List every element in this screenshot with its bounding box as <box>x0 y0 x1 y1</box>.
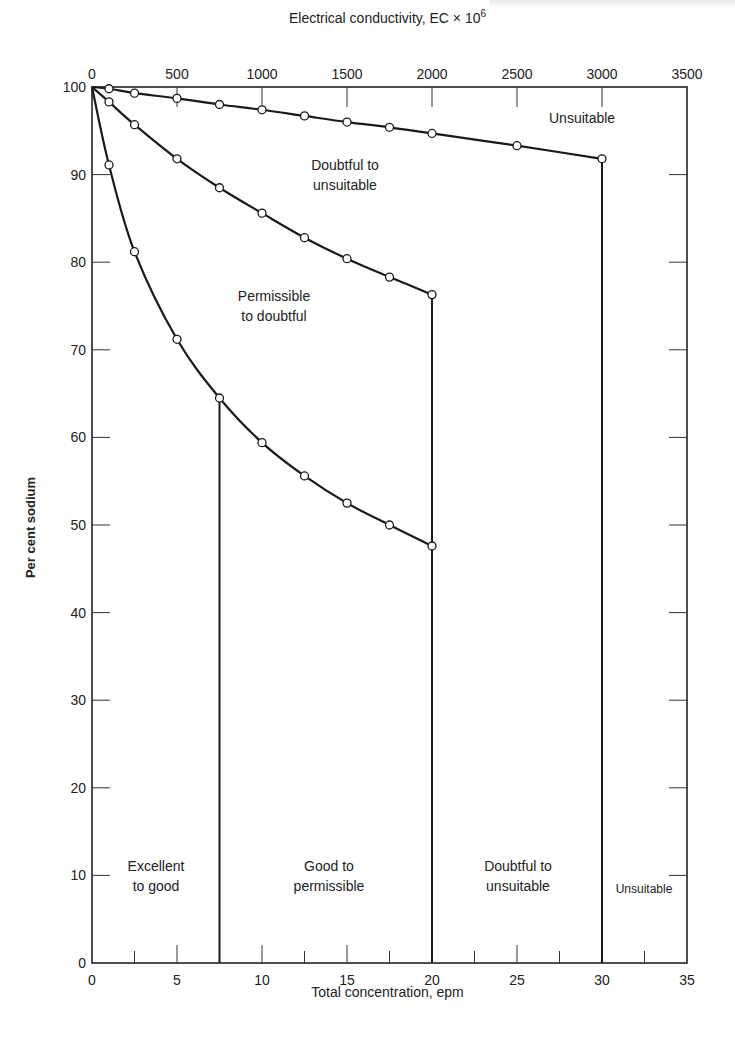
y-tick-label: 70 <box>70 342 86 358</box>
x-tick-label: 10 <box>254 972 270 988</box>
x2-tick-label: 3500 <box>671 66 702 82</box>
region-label-good-2: permissible <box>294 878 365 894</box>
y-tick-label: 50 <box>70 517 86 533</box>
x-tick-label: 20 <box>424 972 440 988</box>
y-tick-label: 40 <box>70 605 86 621</box>
data-point <box>216 184 224 192</box>
data-point <box>258 439 266 447</box>
region-label-lower-unsuitable: Unsuitable <box>616 882 673 896</box>
y-tick-label: 100 <box>63 79 87 95</box>
data-point <box>105 161 113 169</box>
data-point <box>343 118 351 126</box>
data-point <box>173 155 181 163</box>
data-points <box>105 85 606 550</box>
sodium-classification-chart: 0510152025303505001000150020002500300035… <box>0 0 735 1039</box>
data-point <box>216 101 224 109</box>
x-tick-label: 15 <box>339 972 355 988</box>
x-tick-label: 35 <box>679 972 695 988</box>
data-point <box>131 248 139 256</box>
region-label-excellent: Excellent <box>128 858 185 874</box>
region-label-upper-doubtful-2: unsuitable <box>313 177 377 193</box>
x2-tick-label: 1500 <box>331 66 362 82</box>
x-tick-label: 0 <box>88 972 96 988</box>
y-tick-label: 80 <box>70 254 86 270</box>
data-point <box>513 142 521 150</box>
y-tick-label: 20 <box>70 780 86 796</box>
x2-tick-label: 1000 <box>246 66 277 82</box>
region-label-lower-doubtful-2: unsuitable <box>486 878 550 894</box>
data-point <box>386 123 394 131</box>
data-point <box>105 98 113 106</box>
x2-tick-label: 2500 <box>501 66 532 82</box>
y-tick-label: 0 <box>78 955 86 971</box>
boundary-curve-2 <box>92 87 432 295</box>
data-point <box>428 291 436 299</box>
data-point <box>428 129 436 137</box>
data-point <box>173 94 181 102</box>
data-point <box>301 112 309 120</box>
x2-tick-label: 3000 <box>586 66 617 82</box>
x2-tick-label: 500 <box>165 66 189 82</box>
data-point <box>258 209 266 217</box>
data-point <box>131 89 139 97</box>
x2-tick-label: 2000 <box>416 66 447 82</box>
region-label-permissible-2: to doubtful <box>241 308 306 324</box>
region-labels: Unsuitable Doubtful to unsuitable Permis… <box>128 110 673 896</box>
data-point <box>105 85 113 93</box>
x-tick-label: 30 <box>594 972 610 988</box>
boundary-curves <box>92 87 602 963</box>
region-label-excellent-2: to good <box>133 878 180 894</box>
region-label-permissible: Permissible <box>238 288 311 304</box>
axis-tick-labels: 0510152025303505001000150020002500300035… <box>63 66 703 988</box>
region-label-lower-doubtful: Doubtful to <box>484 858 552 874</box>
region-label-upper-doubtful: Doubtful to <box>311 157 379 173</box>
data-point <box>386 273 394 281</box>
x-tick-label: 25 <box>509 972 525 988</box>
region-label-good: Good to <box>304 858 354 874</box>
data-point <box>301 234 309 242</box>
data-point <box>301 472 309 480</box>
y-tick-label: 90 <box>70 167 86 183</box>
data-point <box>343 499 351 507</box>
data-point <box>386 521 394 529</box>
data-point <box>343 255 351 263</box>
data-point <box>216 394 224 402</box>
data-point <box>131 121 139 129</box>
y-tick-label: 60 <box>70 429 86 445</box>
region-label-top-unsuitable: Unsuitable <box>549 110 615 126</box>
data-point <box>258 106 266 114</box>
data-point <box>173 335 181 343</box>
data-point <box>598 155 606 163</box>
x-tick-label: 5 <box>173 972 181 988</box>
y-tick-label: 10 <box>70 867 86 883</box>
y-tick-label: 30 <box>70 692 86 708</box>
data-point <box>428 542 436 550</box>
x2-tick-label: 0 <box>88 66 96 82</box>
